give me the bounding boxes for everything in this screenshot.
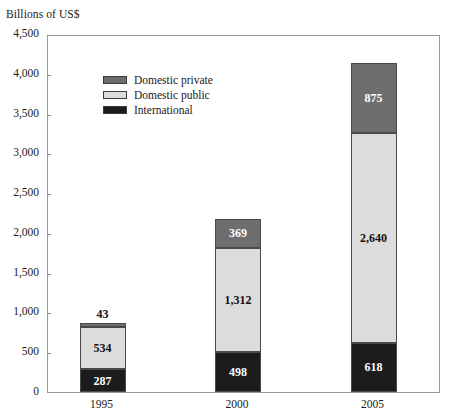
- legend-label: International: [134, 104, 193, 116]
- bar-segment-domestic-private[interactable]: 369: [215, 219, 261, 248]
- bar-value-label: 498: [229, 366, 247, 378]
- bar-segment-domestic-public[interactable]: 1,312: [215, 248, 261, 352]
- bar-segment-international[interactable]: 287: [80, 369, 126, 392]
- y-axis-tick-mark: [47, 353, 51, 354]
- bar-value-label: 43: [97, 308, 109, 320]
- bar-column-2000[interactable]: 4981,312369: [215, 34, 261, 392]
- bar-segment-international[interactable]: 498: [215, 352, 261, 392]
- y-axis-tick-label: 0: [33, 385, 39, 397]
- chart-page: Billions of US$ Domestic privateDomestic…: [0, 0, 451, 419]
- y-axis-tick-mark: [47, 313, 51, 314]
- y-axis-tick-mark: [47, 234, 51, 235]
- y-axis-tick-mark: [47, 194, 51, 195]
- y-axis-tick-label: 4,000: [13, 67, 39, 79]
- plot-area: Domestic privateDomestic publicInternati…: [47, 35, 440, 393]
- bar-value-label: 1,312: [225, 294, 252, 306]
- bar-segment-domestic-private[interactable]: 43: [80, 323, 126, 326]
- legend-label: Domestic public: [134, 89, 210, 101]
- x-axis-tick-label-2005: 2005: [333, 398, 413, 410]
- bar-segment-domestic-public[interactable]: 2,640: [351, 133, 397, 343]
- bar-value-label: 2,640: [360, 232, 387, 244]
- bar-segment-international[interactable]: 618: [351, 343, 397, 392]
- y-axis-title: Billions of US$: [6, 8, 80, 20]
- bar-segment-domestic-private[interactable]: 875: [351, 63, 397, 133]
- bar-value-label: 875: [365, 92, 383, 104]
- legend-label: Domestic private: [134, 74, 213, 86]
- bar-value-label: 369: [229, 227, 247, 239]
- bar-segment-domestic-public[interactable]: 534: [80, 327, 126, 369]
- x-axis-tick-label-1995: 1995: [62, 398, 142, 410]
- y-axis-tick-label: 1,000: [13, 305, 39, 317]
- y-axis-tick-label: 2,500: [13, 186, 39, 198]
- y-axis-tick-label: 4,500: [13, 27, 39, 39]
- stacked-bar: 28753443: [80, 34, 126, 392]
- bar-column-1995[interactable]: 28753443: [80, 34, 126, 392]
- y-axis-tick-mark: [47, 154, 51, 155]
- x-axis-tick-label-2000: 2000: [197, 398, 277, 410]
- bar-value-label: 618: [365, 361, 383, 373]
- bar-value-label: 287: [94, 375, 112, 387]
- y-axis-tick-label: 500: [22, 345, 39, 357]
- stacked-bar: 4981,312369: [215, 34, 261, 392]
- y-axis-tick-label: 3,500: [13, 107, 39, 119]
- y-axis-tick-label: 3,000: [13, 146, 39, 158]
- bar-value-label: 534: [94, 342, 112, 354]
- y-axis-tick-mark: [47, 75, 51, 76]
- y-axis-tick-mark: [47, 274, 51, 275]
- y-axis-tick-mark: [47, 115, 51, 116]
- y-axis-tick-label: 1,500: [13, 266, 39, 278]
- y-axis-tick-label: 2,000: [13, 226, 39, 238]
- bar-column-2005[interactable]: 6182,640875: [351, 34, 397, 392]
- stacked-bar: 6182,640875: [351, 34, 397, 392]
